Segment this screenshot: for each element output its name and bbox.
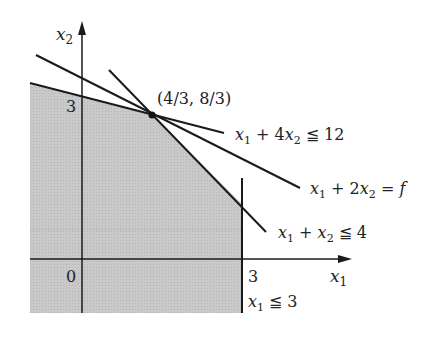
objective-label: x1 + 2x2 = f [310, 179, 408, 201]
y-tick-3: 3 [66, 97, 76, 116]
feasible-region [30, 83, 242, 313]
constraint-label-c1: x1 + 4x2 ≦ 12 [235, 125, 344, 147]
constraint-label-c3: x1 ≦ 3 [248, 292, 297, 314]
y-axis-label: x2 [56, 24, 73, 47]
optimum-point [149, 112, 156, 119]
constraint-label-c2: x1 + x2 ≦ 4 [278, 223, 367, 245]
y-axis-arrow-icon [78, 21, 86, 35]
x-axis-arrow-icon [338, 255, 352, 263]
x-axis-label: x1 [330, 266, 347, 289]
origin-label: 0 [66, 267, 76, 286]
lp-diagram: x2 x1 0 3 3 (4/3, 8/3) x1 + 4x2 ≦ 12 x1 … [0, 0, 446, 343]
x-tick-3: 3 [248, 267, 258, 286]
optimum-point-label: (4/3, 8/3) [157, 89, 231, 108]
